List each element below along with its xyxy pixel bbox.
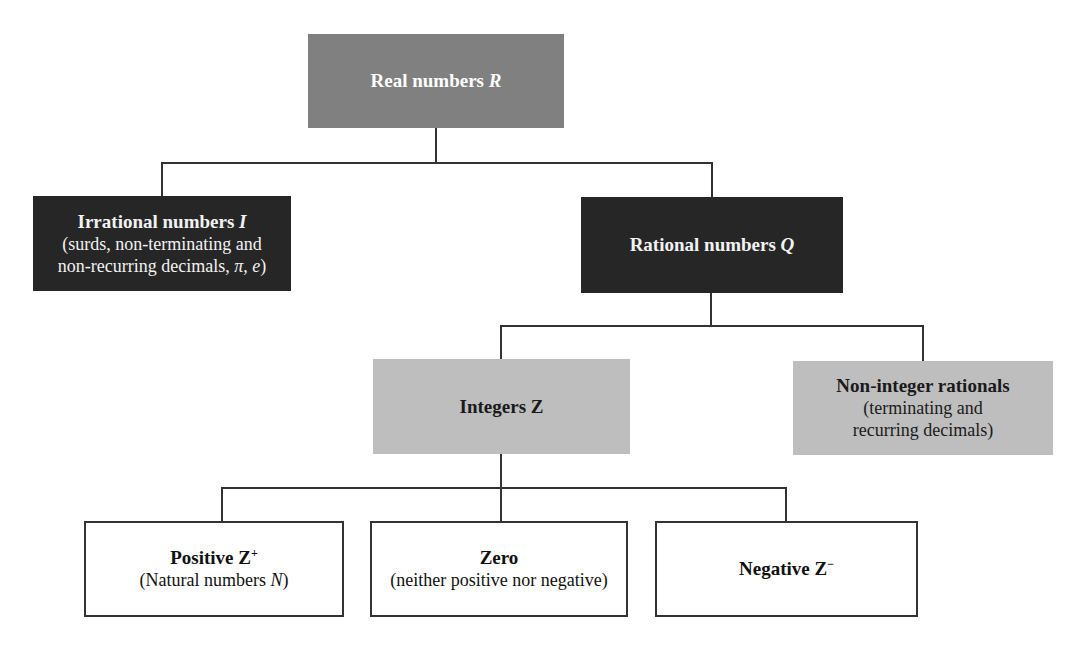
node-zero: Zero (neither positive nor negative) xyxy=(370,521,628,617)
connector-real-down xyxy=(435,127,437,163)
text: (Natural numbers xyxy=(140,570,271,590)
node-description: (neither positive nor negative) xyxy=(390,569,607,591)
title-text: Irrational numbers xyxy=(78,211,240,232)
title-text: Negative Z xyxy=(739,558,827,579)
connector-integers-up xyxy=(500,325,502,360)
node-non-integer-rationals: Non-integer rationals (terminating and r… xyxy=(793,361,1053,455)
symbol-R: R xyxy=(489,70,502,91)
node-title: Positive Z+ xyxy=(170,547,258,569)
node-description-line2: non-recurring decimals, π, e) xyxy=(58,255,266,277)
symbol-N: N xyxy=(270,570,282,590)
node-title: Integers Z xyxy=(460,396,544,418)
title-text: Positive Z xyxy=(170,547,251,568)
node-real-numbers: Real numbers R xyxy=(308,34,564,128)
connector-noninteger-up xyxy=(922,325,924,361)
node-description-line2: recurring decimals) xyxy=(853,419,993,441)
connector-zero-up xyxy=(500,487,502,522)
symbol-Q: Q xyxy=(781,234,795,255)
symbol-I: I xyxy=(239,211,246,232)
node-description-line1: (terminating and xyxy=(863,397,982,419)
node-positive-integers: Positive Z+ (Natural numbers N) xyxy=(84,521,344,617)
connector-level2-horizontal xyxy=(500,325,923,327)
title-text: Real numbers xyxy=(371,70,489,91)
title-text: Rational numbers xyxy=(630,234,781,255)
node-irrational-numbers: Irrational numbers I (surds, non-termina… xyxy=(33,196,291,291)
node-description: (Natural numbers N) xyxy=(140,569,289,591)
node-title: Real numbers R xyxy=(371,70,502,92)
superscript-plus: + xyxy=(251,546,258,560)
connector-integers-down xyxy=(500,454,502,488)
node-title: Zero xyxy=(480,547,519,569)
connector-level3-horizontal xyxy=(221,487,786,489)
text: , xyxy=(243,256,252,276)
symbol-pi: π xyxy=(234,256,243,276)
connector-level1-horizontal xyxy=(161,162,712,164)
text: ) xyxy=(260,256,266,276)
node-title: Negative Z− xyxy=(739,558,834,580)
node-title: Non-integer rationals xyxy=(836,375,1009,397)
connector-rational-down xyxy=(710,292,712,326)
node-title: Irrational numbers I xyxy=(78,211,247,233)
connector-positive-up xyxy=(221,487,223,522)
connector-negative-up xyxy=(785,487,787,522)
text: ) xyxy=(282,570,288,590)
text: non-recurring decimals, xyxy=(58,256,234,276)
connector-rational-up xyxy=(711,162,713,197)
node-rational-numbers: Rational numbers Q xyxy=(581,197,843,293)
superscript-minus: − xyxy=(827,557,834,571)
node-negative-integers: Negative Z− xyxy=(655,521,918,617)
node-title: Rational numbers Q xyxy=(630,234,795,256)
node-description-line1: (surds, non-terminating and xyxy=(62,233,261,255)
node-integers: Integers Z xyxy=(373,359,630,454)
connector-irrational-up xyxy=(161,162,163,197)
